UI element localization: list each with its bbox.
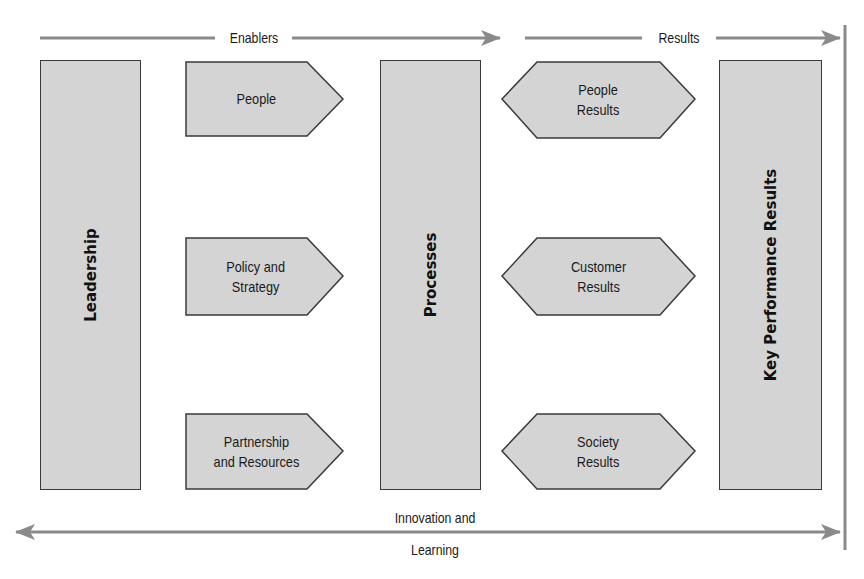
result-customer-label: Customer Results [571,257,626,297]
result-society: Society Results [502,414,695,489]
enabler-policy-strategy-label: Policy and Strategy [227,257,286,297]
enabler-policy-strategy: Policy and Strategy [186,238,326,315]
processes-box: Processes [380,60,481,490]
innovation-label-line1: Innovation and [374,508,497,527]
result-society-label: Society Results [577,432,620,472]
result-people-label: People Results [577,80,620,120]
result-people: People Results [502,62,695,138]
enabler-partnership-resources-label: Partnership and Resources [213,432,299,472]
innovation-label-line2: Learning [374,540,497,559]
key-performance-results-box: Key Performance Results [719,60,822,490]
enabler-people-label: People [236,89,276,109]
processes-label: Processes [422,233,440,318]
enabler-people: People [186,62,326,136]
results-label: Results [650,28,707,47]
key-performance-results-label: Key Performance Results [762,169,780,382]
leadership-label: Leadership [82,228,100,322]
enablers-label: Enablers [224,28,283,47]
enabler-partnership-resources: Partnership and Resources [186,414,326,489]
leadership-box: Leadership [40,60,141,490]
result-customer: Customer Results [502,238,695,315]
